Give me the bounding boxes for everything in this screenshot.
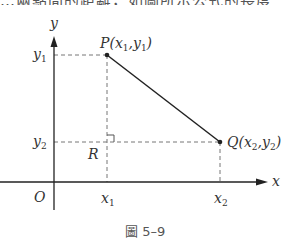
- x-axis-arrow-icon: [256, 179, 268, 186]
- point-p: [105, 53, 110, 58]
- figure-caption: 圖 5–9: [125, 224, 165, 239]
- label-p: P(x1,y1): [99, 35, 152, 53]
- tick-x2: x2: [214, 190, 228, 208]
- tick-y1: y1: [32, 46, 47, 64]
- y-axis-label: y: [49, 15, 59, 31]
- segment-pq: [107, 55, 220, 142]
- tick-x1: x1: [101, 190, 115, 208]
- tick-y2: y2: [32, 133, 47, 151]
- label-r: R: [87, 146, 99, 162]
- x-axis-label: x: [272, 173, 280, 189]
- distance-diagram: y x O y1 y2 x1 x2 P(x1,y1) Q(x2,y2) R 圖 …: [0, 0, 293, 249]
- dashed-guides: [54, 55, 220, 182]
- label-q: Q(x2,y2): [227, 134, 281, 152]
- point-q: [218, 140, 223, 145]
- y-axis-arrow-icon: [51, 36, 58, 47]
- right-angle-marker: [107, 135, 114, 142]
- origin-label: O: [34, 189, 46, 205]
